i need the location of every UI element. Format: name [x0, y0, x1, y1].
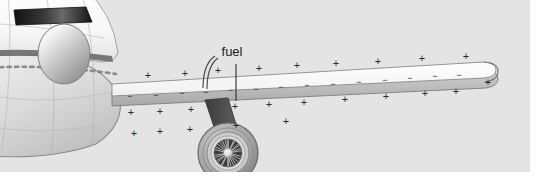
plus-sign: + — [232, 100, 238, 112]
minus-sign: − — [456, 70, 461, 80]
plus-sign: + — [422, 87, 428, 99]
plus-sign: + — [215, 64, 221, 76]
engine-spinner — [223, 148, 232, 157]
cockpit-windshield — [14, 7, 92, 25]
plus-sign: + — [182, 67, 188, 79]
minus-sign: − — [253, 84, 258, 94]
minus-sign: − — [356, 77, 361, 87]
plus-sign: + — [383, 90, 389, 102]
minus-sign: − — [382, 75, 387, 85]
fuselage — [0, 0, 121, 157]
plus-sign: + — [131, 127, 137, 139]
plus-sign: + — [157, 125, 163, 137]
plus-sign: + — [301, 96, 307, 108]
plus-sign: + — [283, 115, 289, 127]
minus-sign: − — [304, 80, 309, 90]
plus-sign: + — [333, 57, 339, 69]
plus-sign: + — [485, 76, 491, 88]
plus-sign: + — [463, 50, 469, 62]
minus-sign: − — [330, 79, 335, 89]
plus-sign: + — [128, 106, 134, 118]
plus-sign: + — [419, 52, 425, 64]
plus-sign: + — [187, 123, 193, 135]
minus-sign: − — [407, 73, 412, 83]
nose-radome — [38, 24, 90, 84]
fuel-label: fuel — [222, 44, 243, 59]
minus-sign: − — [127, 91, 132, 101]
plus-sign: + — [256, 62, 262, 74]
minus-sign: − — [228, 85, 233, 95]
minus-sign: − — [179, 88, 184, 98]
plus-sign: + — [145, 69, 151, 81]
plus-sign: + — [375, 55, 381, 67]
plus-sign: + — [342, 93, 348, 105]
plus-sign: + — [233, 119, 239, 131]
minus-sign: − — [153, 90, 158, 100]
plus-sign: + — [266, 98, 272, 110]
minus-sign: − — [278, 82, 283, 92]
plus-sign: + — [188, 103, 194, 115]
minus-sign: − — [203, 87, 208, 97]
minus-sign: − — [432, 71, 437, 81]
plus-sign: + — [453, 85, 459, 97]
plus-sign: + — [294, 59, 300, 71]
plus-sign: + — [157, 105, 163, 117]
aircraft-wing-fuel-diagram: +++++++++++++++++++++++++−−−−−−−−−−−−−− … — [0, 0, 551, 189]
